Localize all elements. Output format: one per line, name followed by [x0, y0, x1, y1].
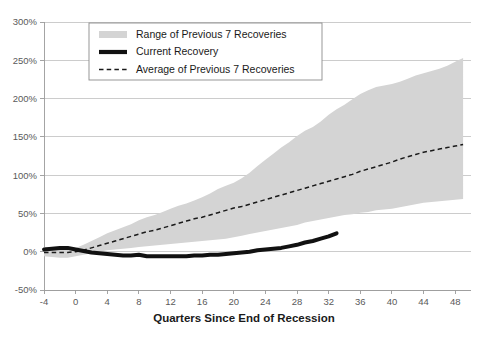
x-axis-title: Quarters Since End of Recession: [153, 312, 335, 324]
x-tick-label: 16: [197, 296, 208, 307]
recovery-comparison-chart: -50%0%50%100%150%200%250%300% -404812162…: [0, 0, 484, 339]
legend-item-label: Average of Previous 7 Recoveries: [136, 63, 295, 75]
x-tick-label: 48: [450, 296, 461, 307]
y-axis-tick-labels: -50%0%50%100%150%200%250%300%: [13, 16, 38, 295]
y-tick-label: 250%: [13, 55, 38, 66]
legend-swatch-range: [99, 31, 127, 38]
x-tick-label: 8: [136, 296, 141, 307]
y-tick-label: 50%: [18, 208, 38, 219]
legend-item-label: Current Recovery: [136, 45, 219, 57]
chart-canvas: -50%0%50%100%150%200%250%300% -404812162…: [0, 0, 484, 339]
x-tick-label: 36: [355, 296, 366, 307]
legend-item-label: Range of Previous 7 Recoveries: [136, 28, 287, 40]
x-tick-label: 32: [323, 296, 334, 307]
x-tick-label: 28: [292, 296, 303, 307]
y-tick-label: 150%: [13, 131, 38, 142]
x-tick-label: 44: [418, 296, 429, 307]
x-tick-label: 12: [165, 296, 176, 307]
x-tick-label: 24: [260, 296, 271, 307]
x-tick-label: 20: [228, 296, 239, 307]
y-tick-label: 300%: [13, 16, 38, 27]
y-tick-label: 0%: [23, 246, 37, 257]
x-tick-label: 40: [387, 296, 398, 307]
chart-legend: Range of Previous 7 RecoveriesCurrent Re…: [89, 23, 322, 80]
x-tick-label: 0: [73, 296, 78, 307]
range-band-path: [44, 58, 463, 258]
x-tick-label: 4: [105, 296, 110, 307]
y-tick-label: 200%: [13, 93, 38, 104]
x-axis-ticks: [44, 290, 455, 294]
y-tick-label: -50%: [15, 284, 38, 295]
y-tick-label: 100%: [13, 170, 38, 181]
x-tick-label: -4: [40, 296, 48, 307]
x-axis-tick-labels: -404812162024283236404448: [40, 296, 461, 307]
range-band-area: [44, 58, 463, 258]
